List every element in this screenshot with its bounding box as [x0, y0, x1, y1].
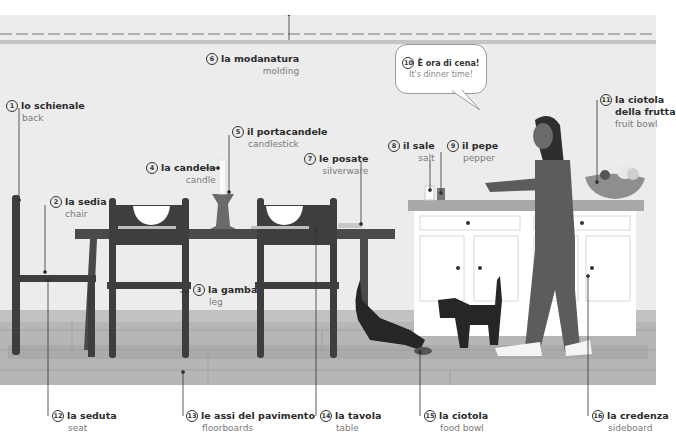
label-en: It's dinner time!	[396, 69, 486, 80]
label-seat: 12la seduta seat	[52, 410, 117, 434]
label-number: 13	[186, 410, 198, 422]
label-english: seat	[52, 422, 117, 434]
label-english: molding	[206, 65, 299, 77]
label-number: 10	[402, 57, 414, 69]
food-bowl	[414, 347, 432, 355]
label-italian: le posate	[319, 153, 368, 164]
label-english: chair	[50, 208, 107, 220]
label-italian: la modanatura	[221, 53, 299, 64]
plate-right	[251, 226, 309, 229]
label-english: fruit bowl	[600, 118, 676, 130]
label-italian: la sedia	[65, 196, 107, 207]
label-number: 15	[424, 410, 436, 422]
label-number: 5	[232, 126, 244, 138]
label-italian: la ciotola	[439, 410, 488, 421]
label-number: 1	[6, 100, 18, 112]
label-number: 6	[206, 53, 218, 65]
label-english: floorboards	[186, 422, 315, 434]
label-leg: 3la gamba leg	[193, 284, 257, 308]
label-it: 10È ora di cena!	[396, 57, 486, 69]
label-english: table	[320, 422, 381, 434]
label-english: candlestick	[232, 138, 328, 150]
label-fruit-bowl: 11la ciotola della frutta fruit bowl	[600, 94, 676, 130]
label-number: 3	[193, 284, 205, 296]
label-italian-line2: della frutta	[600, 106, 676, 118]
label-molding: 6la modanatura molding	[206, 53, 299, 77]
salt-shaker	[425, 186, 434, 200]
label-italian: la gamba	[208, 284, 257, 295]
label-italian: il sale	[403, 140, 435, 151]
label-number: 2	[50, 196, 62, 208]
label-english: salt	[388, 152, 435, 164]
label-number: 12	[52, 410, 64, 422]
label-italian: È ora di cena!	[417, 59, 479, 68]
label-english: sideboard	[592, 422, 669, 434]
silverware	[338, 223, 362, 228]
label-italian: la candela	[161, 162, 216, 173]
label-number: 7	[304, 153, 316, 165]
label-number: 8	[388, 140, 400, 152]
label-italian: il portacandele	[247, 126, 328, 137]
label-italian: la tavola	[335, 410, 381, 421]
label-number: 16	[592, 410, 604, 422]
label-number: 14	[320, 410, 332, 422]
label-back: 1lo schienale back	[6, 100, 85, 124]
label-italian: le assi del pavimento	[201, 410, 315, 421]
label-italian: la ciotola	[615, 94, 664, 105]
label-chair: 2la sedia chair	[50, 196, 107, 220]
label-english: food bowl	[424, 422, 488, 434]
label-candlestick: 5il portacandele candlestick	[232, 126, 328, 150]
label-floorboards: 13le assi del pavimento floorboards	[186, 410, 315, 434]
label-food-bowl: 15la ciotola food bowl	[424, 410, 488, 434]
label-english: silverware	[304, 165, 368, 177]
label-italian: la seduta	[67, 410, 117, 421]
label-number: 11	[600, 94, 612, 106]
label-english: pepper	[447, 152, 498, 164]
label-italian: la credenza	[607, 410, 669, 421]
label-italian: lo schienale	[21, 100, 85, 111]
label-table: 14la tavola table	[320, 410, 381, 434]
label-english: leg	[193, 296, 257, 308]
speech-bubble-tail	[440, 85, 490, 115]
label-salt: 8il sale salt	[388, 140, 435, 164]
label-number: 4	[146, 162, 158, 174]
label-number: 9	[447, 140, 459, 152]
label-italian: il pepe	[462, 140, 498, 151]
label-pepper: 9il pepe pepper	[447, 140, 498, 164]
plate-left	[118, 226, 176, 229]
label-silverware: 7le posate silverware	[304, 153, 368, 177]
label-english: back	[6, 112, 85, 124]
label-candle: 4la candela candle	[146, 162, 216, 186]
label-english: candle	[146, 174, 216, 186]
label-sideboard: 16la credenza sideboard	[592, 410, 669, 434]
header-strip	[0, 0, 675, 15]
